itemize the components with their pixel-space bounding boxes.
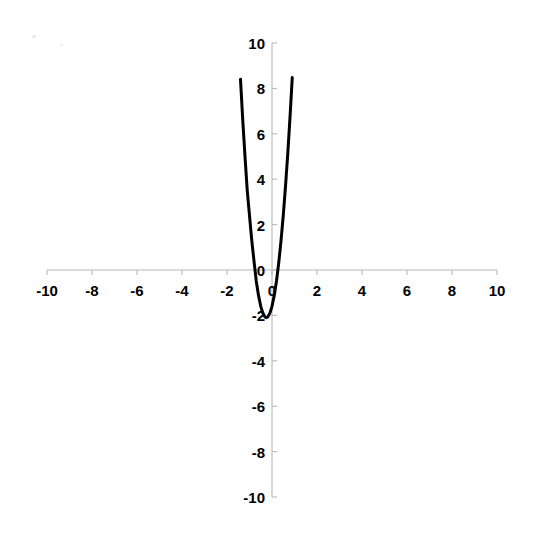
y-tick-label-0: 0 (257, 263, 265, 278)
curve-group (241, 78, 293, 318)
x-tick-label-8: 8 (448, 283, 456, 298)
scan-speck (32, 35, 36, 38)
x-tick-label-10: 10 (489, 283, 506, 298)
y-tick-label-2: 2 (257, 217, 265, 232)
x-tick-label-neg2: -2 (220, 283, 233, 298)
plot-area (0, 0, 535, 543)
x-tick-label-0: 0 (268, 283, 276, 298)
axes-group (47, 43, 497, 497)
y-tick-label-neg2: -2 (252, 308, 265, 323)
x-tick-label-2: 2 (313, 283, 321, 298)
scan-speck (60, 44, 63, 46)
y-tick-label-8: 8 (257, 81, 265, 96)
x-tick-label-6: 6 (403, 283, 411, 298)
x-tick-label-neg6: -6 (130, 283, 143, 298)
y-tick-label-4: 4 (257, 172, 265, 187)
y-tick-label-neg8: -8 (252, 444, 265, 459)
x-tick-label-4: 4 (358, 283, 366, 298)
x-tick-label-neg4: -4 (175, 283, 188, 298)
y-tick-label-neg6: -6 (252, 399, 265, 414)
x-tick-label-neg10: -10 (36, 283, 58, 298)
x-tick-label-neg8: -8 (85, 283, 98, 298)
y-tick-label-neg4: -4 (252, 353, 265, 368)
y-tick-label-10: 10 (248, 36, 265, 51)
y-tick-label-6: 6 (257, 126, 265, 141)
y-tick-label-neg10: -10 (243, 490, 265, 505)
parabola-curve (241, 78, 293, 318)
chart-figure: -10-8-6-4-20246810 -10-8-6-4-20246810 (0, 0, 535, 543)
